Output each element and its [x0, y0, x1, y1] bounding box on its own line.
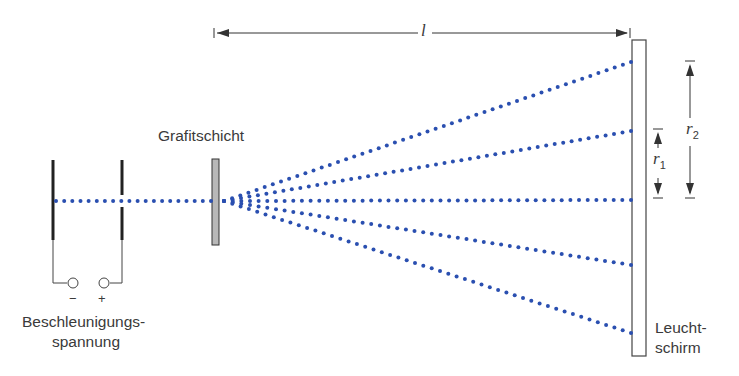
ray-bottom-inner-dot — [594, 258, 598, 262]
ray-bottom-outer-dot — [380, 250, 384, 254]
ray-bottom-inner-dot — [465, 237, 469, 241]
r2-arrowhead-top — [686, 64, 694, 76]
ray-center-dot — [551, 198, 555, 202]
ray-bottom-outer-dot — [480, 283, 484, 287]
ray-top-outer-dot — [246, 191, 250, 195]
voltage-label-line2: spannung — [52, 333, 120, 351]
incoming-beam-dot — [168, 199, 172, 203]
ray-top-inner-dot — [417, 166, 421, 170]
ray-top-inner-dot — [621, 131, 625, 135]
ray-top-inner-dot — [349, 177, 353, 181]
ray-center-dot — [257, 199, 261, 203]
ray-bottom-inner-dot — [343, 218, 347, 222]
ray-bottom-inner-dot — [378, 224, 382, 228]
ray-top-outer-dot — [621, 63, 625, 67]
r2-label: r2 — [686, 120, 699, 139]
ray-center-dot — [620, 198, 624, 202]
ray-center-dot — [577, 198, 581, 202]
ray-bottom-inner-dot — [447, 234, 451, 238]
ray-bottom-inner-dot — [274, 207, 278, 211]
ray-center-dot — [603, 198, 607, 202]
ray-bottom-inner-dot — [413, 229, 417, 233]
ray-top-outer-dot — [279, 180, 283, 184]
ray-top-outer-dot — [466, 116, 470, 120]
r2-subscript: 2 — [693, 129, 699, 141]
ray-center-dot — [568, 198, 572, 202]
ray-top-outer-dot — [295, 174, 299, 178]
incoming-beam-dot — [193, 199, 197, 203]
ray-top-outer-dot — [499, 105, 503, 109]
ray-bottom-outer-dot — [579, 315, 583, 319]
incoming-beam-dot — [160, 199, 164, 203]
incoming-beam-dot — [70, 199, 74, 203]
ray-top-inner-dot — [281, 189, 285, 193]
ray-top-inner-dot — [332, 180, 336, 184]
ray-top-inner-dot — [298, 186, 302, 190]
ray-bottom-outer-dot — [496, 288, 500, 292]
screen-label-line1: Leucht- — [655, 319, 707, 337]
ray-top-inner-dot — [273, 190, 277, 194]
ray-bottom-outer-dot — [463, 277, 467, 281]
ray-top-outer-dot — [483, 110, 487, 114]
ray-bottom-outer-dot — [264, 213, 268, 217]
ray-center-dot — [456, 198, 460, 202]
plus-sign: + — [98, 290, 106, 308]
ray-top-inner-dot — [612, 132, 616, 136]
wire-anode — [110, 240, 122, 283]
ray-top-inner-dot — [476, 155, 480, 159]
ray-center-dot — [586, 198, 590, 202]
ray-bottom-inner-dot — [534, 248, 538, 252]
ray-center-dot — [361, 199, 365, 203]
ray-center-dot — [395, 199, 399, 203]
ray-bottom-inner-dot — [369, 222, 373, 226]
ray-center-dot — [560, 198, 564, 202]
ray-center-dot — [490, 198, 494, 202]
ray-top-outer-dot — [360, 152, 364, 156]
ray-bottom-outer-dot — [297, 223, 301, 227]
ray-bottom-outer-dot — [554, 307, 558, 311]
ray-bottom-inner-dot — [361, 221, 365, 225]
ray-center-dot — [447, 198, 451, 202]
ray-top-inner-dot — [307, 184, 311, 188]
incoming-beam-dot — [79, 199, 83, 203]
ray-center-dot — [465, 198, 469, 202]
ray-center-dot — [309, 199, 313, 203]
ray-bottom-inner-dot — [603, 259, 607, 263]
voltage-label-line1: Beschleunigungs- — [22, 313, 145, 331]
ray-top-outer-dot — [344, 157, 348, 161]
ray-center-dot — [291, 199, 295, 203]
ray-top-outer-dot — [515, 99, 519, 103]
ray-center-dot — [629, 198, 633, 202]
ray-top-inner-dot — [375, 173, 379, 177]
incoming-beam-dot — [95, 199, 99, 203]
ray-top-inner-dot — [383, 171, 387, 175]
ray-top-inner-dot — [519, 148, 523, 152]
ray-top-outer-dot — [434, 127, 438, 131]
ray-top-outer-dot — [271, 182, 275, 186]
ray-top-outer-dot — [507, 102, 511, 106]
ray-bottom-outer-dot — [612, 326, 616, 330]
ray-top-outer-dot — [556, 85, 560, 89]
terminal-plus — [99, 278, 109, 288]
ray-bottom-outer-dot — [280, 218, 284, 222]
ray-bottom-outer-dot — [438, 269, 442, 273]
ray-bottom-outer-dot — [255, 210, 259, 214]
ray-top-outer-dot — [613, 66, 617, 70]
ray-center-dot — [283, 199, 287, 203]
ray-top-outer-dot — [442, 124, 446, 128]
ray-bottom-inner-dot — [620, 262, 624, 266]
ray-bottom-outer-dot — [588, 318, 592, 322]
ray-center-dot — [343, 199, 347, 203]
wire-cathode — [53, 240, 67, 283]
r2-arrowhead-bottom — [686, 183, 694, 195]
ray-bottom-inner-dot — [542, 249, 546, 253]
r1-symbol: r — [653, 149, 660, 168]
ray-top-inner-dot — [544, 144, 548, 148]
ray-bottom-inner-dot — [568, 254, 572, 258]
ray-bottom-outer-dot — [604, 323, 608, 327]
incoming-beam-dot — [127, 199, 131, 203]
ray-bottom-inner-dot — [430, 232, 434, 236]
ray-center-dot — [534, 198, 538, 202]
ray-top-outer-dot — [531, 93, 535, 97]
fluorescent-screen — [632, 40, 646, 356]
